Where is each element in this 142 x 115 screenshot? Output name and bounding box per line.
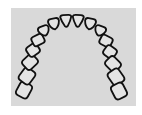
dental-arch [0, 0, 142, 115]
tooth-left-1 [60, 15, 72, 27]
tooth-right-1 [72, 15, 84, 27]
